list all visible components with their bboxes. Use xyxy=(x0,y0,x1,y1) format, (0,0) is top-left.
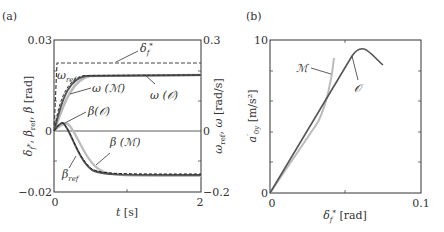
annot-omega-ref: ωref xyxy=(57,69,77,84)
panel-a-label: (a) xyxy=(2,10,17,23)
annot-beta-ref: βref xyxy=(61,168,80,183)
a-ytick-top: 0.03 xyxy=(28,34,53,47)
panel-b-axes-box xyxy=(270,40,421,193)
annot-O: 𝒪 xyxy=(354,82,364,95)
panel-b-plot: ℳ 𝒪 xyxy=(270,40,421,193)
annot-beta-O: β(𝒪) xyxy=(87,105,110,118)
a-ylabel-right: ωref, ω [rad/s] xyxy=(212,78,227,153)
b-xtick-left: 0 xyxy=(269,197,276,210)
delta-f-curve xyxy=(54,63,201,131)
a-xlabel: t [s] xyxy=(116,206,138,219)
a-rtick-zero: 0 xyxy=(203,125,210,138)
annot-beta-M: β (ℳ) xyxy=(109,136,140,149)
b-ytick-bottom: 0 xyxy=(261,187,268,200)
annot-M: ℳ xyxy=(296,62,310,75)
a-ytick-bottom: −0.02 xyxy=(18,186,52,199)
b-xtick-right: 0.1 xyxy=(412,197,430,210)
panel-a-plot: δf* ωref ω (ℳ) ω (𝒪) β(𝒪) β (ℳ) βref xyxy=(54,40,201,192)
panel-b-label: (b) xyxy=(246,10,262,23)
figure: (a) δf* ωref ω (ℳ) ω (𝒪) xyxy=(0,0,444,232)
a-ytick-zero: 0 xyxy=(45,125,52,138)
a-rtick-top: 0.3 xyxy=(203,34,221,47)
a-ylabel-left: δf*, βref, β [rad] xyxy=(22,76,37,156)
b-xlabel: δf* [rad] xyxy=(323,209,367,224)
beta-M-curve xyxy=(54,124,201,176)
O-curve xyxy=(270,49,383,193)
a-xtick-left: 0 xyxy=(52,196,59,209)
b-ylabel: a′0y [m/s²] xyxy=(246,90,261,143)
a-rtick-bottom: −0.2 xyxy=(203,186,230,199)
a-xtick-right: 2 xyxy=(197,196,204,209)
M-curve xyxy=(270,58,334,193)
b-ytick-top: 10 xyxy=(254,34,268,47)
annot-omega-O: ω (𝒪) xyxy=(150,89,178,102)
annot-omega-M: ω (ℳ) xyxy=(92,82,125,95)
annot-delta-f: δf* xyxy=(140,42,153,57)
